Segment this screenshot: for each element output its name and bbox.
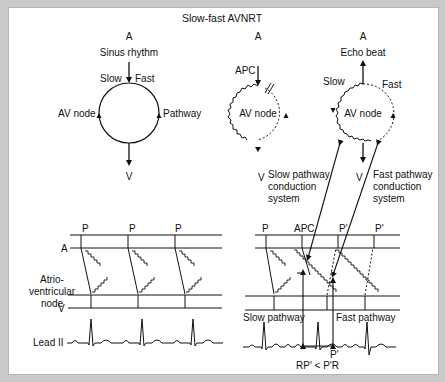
- echo-beat-label: Echo beat: [340, 47, 385, 58]
- fast-callout-line2: conduction: [373, 181, 421, 192]
- slow-callout-pointer: [308, 143, 340, 258]
- a-label: A: [61, 243, 68, 254]
- panel-apc: A APC AV node V: [228, 31, 289, 183]
- rp-relation-label: RP' < P'R: [296, 360, 339, 371]
- fast-pathway-label: Fast pathway: [336, 312, 395, 323]
- ecg-trace-lead-ii: [67, 319, 223, 346]
- av-node-label: AV node: [344, 108, 382, 119]
- ecg-trace: [243, 322, 396, 355]
- p-label: P: [262, 223, 269, 234]
- fast-label: Fast: [135, 73, 155, 84]
- av-node-label: AV node: [239, 108, 277, 119]
- node-label-1: Atrio-: [40, 274, 64, 285]
- v-label: V: [58, 303, 65, 314]
- slow-pathway-stairs: [336, 250, 378, 292]
- slow-callout-line2: conduction: [268, 181, 316, 192]
- slow-callout-line1: Slow pathway: [268, 169, 330, 180]
- fast-retro-dashed: [365, 248, 373, 295]
- p-label: P: [175, 223, 182, 234]
- slow-pathway-label: Slow pathway: [243, 312, 305, 323]
- av-node-label: AV node: [58, 108, 96, 119]
- sinus-rhythm-label: Sinus rhythm: [100, 47, 158, 58]
- p-label: P: [129, 223, 136, 234]
- slow-path-arrow: [97, 113, 102, 118]
- p-label: P: [82, 223, 89, 234]
- pathway-label: Pathway: [163, 108, 201, 119]
- antegrade-arrow: [331, 108, 336, 113]
- fast-callout-line1: Fast pathway: [373, 169, 432, 180]
- ventricle-label: V: [258, 172, 265, 183]
- av-node-circuit: [99, 83, 159, 143]
- fast-callout-pointer: [333, 143, 378, 275]
- p-prime-label: P': [330, 349, 339, 360]
- ladder-beat: [175, 235, 201, 308]
- down-arrow: [255, 147, 261, 152]
- apc-label: APC: [235, 65, 256, 76]
- atrium-label: A: [126, 31, 133, 42]
- fast-path-arrow: [157, 113, 162, 118]
- retro-arrow: [391, 113, 396, 118]
- atrium-label: A: [360, 31, 367, 42]
- slow-label: Slow: [323, 76, 345, 87]
- diagram-title: Slow-fast AVNRT: [182, 12, 263, 24]
- slow-label: Slow: [100, 73, 122, 84]
- p-prime-label: P': [339, 223, 348, 234]
- ventricle-label: V: [356, 172, 363, 183]
- ladder-left: P P P A Atrio- ventricular node V: [29, 223, 223, 348]
- apc-label: APC: [294, 223, 315, 234]
- ladder-beat: [81, 235, 107, 308]
- atrium-label: A: [255, 31, 262, 42]
- ladder-beat: [128, 235, 154, 308]
- retro-arrow: [284, 113, 289, 118]
- slow-pathway-stairs: [294, 250, 336, 292]
- avnrt-diagram: Slow-fast AVNRT A Sinus rhythm Slow Fast…: [0, 0, 445, 382]
- slow-callout-line3: system: [268, 193, 300, 204]
- ladder-right: P APC P' P' Slow pathway Fast pathway P': [243, 223, 400, 371]
- ventricle-label: V: [126, 171, 133, 182]
- lead-ii-label: Lead II: [33, 337, 64, 348]
- fast-label: Fast: [382, 79, 402, 90]
- fast-callout-line3: system: [373, 193, 405, 204]
- p-prime-label: P': [375, 223, 384, 234]
- panel-sinus-rhythm: A Sinus rhythm Slow Fast AV node Pathway…: [58, 31, 201, 182]
